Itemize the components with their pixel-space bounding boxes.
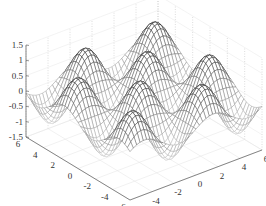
- y-tick-label: 6: [264, 154, 266, 164]
- x-tick-label: -2: [84, 181, 92, 191]
- x-tick-label: 4: [33, 150, 38, 160]
- y-tick-label: -6: [130, 204, 138, 206]
- y-tick-label: -2: [174, 187, 182, 197]
- x-tick-label: 6: [16, 139, 21, 149]
- z-tick-label: 1: [19, 55, 24, 65]
- x-tick-label: 0: [68, 171, 73, 181]
- y-tick-label: -4: [152, 196, 160, 206]
- x-tick-label: -4: [101, 192, 109, 202]
- z-tick-label: 0.5: [12, 71, 24, 81]
- x-tick-label: 2: [50, 160, 55, 170]
- surface-plot: -1.5-1-0.500.511.5-6-4-20246-6-4-20246: [0, 0, 266, 206]
- z-tick-label: -0.5: [9, 101, 24, 111]
- y-tick-label: 4: [242, 162, 247, 172]
- y-tick-label: 2: [220, 171, 225, 181]
- x-tick-label: -6: [118, 202, 126, 206]
- z-tick-label: 1.5: [12, 40, 24, 50]
- z-tick-label: 0: [19, 86, 24, 96]
- z-tick-label: -1: [16, 117, 24, 127]
- y-tick-label: 0: [198, 179, 203, 189]
- mesh-surface: [26, 22, 262, 160]
